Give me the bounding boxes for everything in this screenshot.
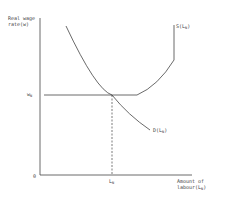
labour-subscript: N [112, 181, 114, 185]
y-axis-label: Real wage rate(w) [8, 15, 35, 27]
labour-market-diagram [0, 0, 231, 197]
wage-tick-label: wN [27, 91, 32, 99]
supply-curve [137, 25, 174, 95]
demand-curve [66, 26, 150, 130]
demand-curve-label: D(LN) [153, 127, 167, 135]
y-axis-label-line2: rate(w) [8, 21, 35, 27]
supply-close: ) [187, 23, 190, 29]
origin-label: 0 [33, 173, 36, 179]
x-axis-label-text: labour(L [177, 184, 201, 190]
x-axis-label-close: ) [203, 184, 206, 190]
demand-close: ) [164, 127, 167, 133]
supply-symbol: S(L [176, 23, 185, 29]
labour-tick-label: LN [109, 178, 114, 186]
wage-subscript: N [30, 94, 32, 98]
supply-curve-label: S(LN) [176, 23, 190, 31]
x-axis-label-line2: labour(LN) [177, 184, 206, 192]
x-axis-label: Amount of labour(LN) [177, 178, 206, 192]
demand-symbol: D(L [153, 127, 162, 133]
